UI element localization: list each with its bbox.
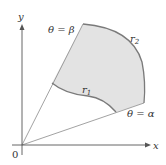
polar-region-diagram: y x 0 θ = β θ = α r2 r1 (0, 0, 166, 165)
ray-alpha-label: θ = α (127, 108, 155, 119)
ray-beta-label: θ = β (48, 24, 75, 35)
x-axis-arrow-icon (145, 143, 151, 148)
y-axis-arrow-icon (20, 24, 25, 30)
origin-label: 0 (12, 149, 18, 160)
x-axis-label: x (153, 140, 159, 151)
y-axis-label: y (17, 11, 24, 22)
